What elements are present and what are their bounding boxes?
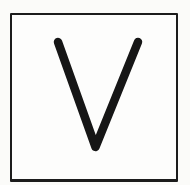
letter-card [0, 0, 190, 185]
letter-v-stroke [58, 42, 138, 147]
letter-v-icon [0, 0, 190, 185]
